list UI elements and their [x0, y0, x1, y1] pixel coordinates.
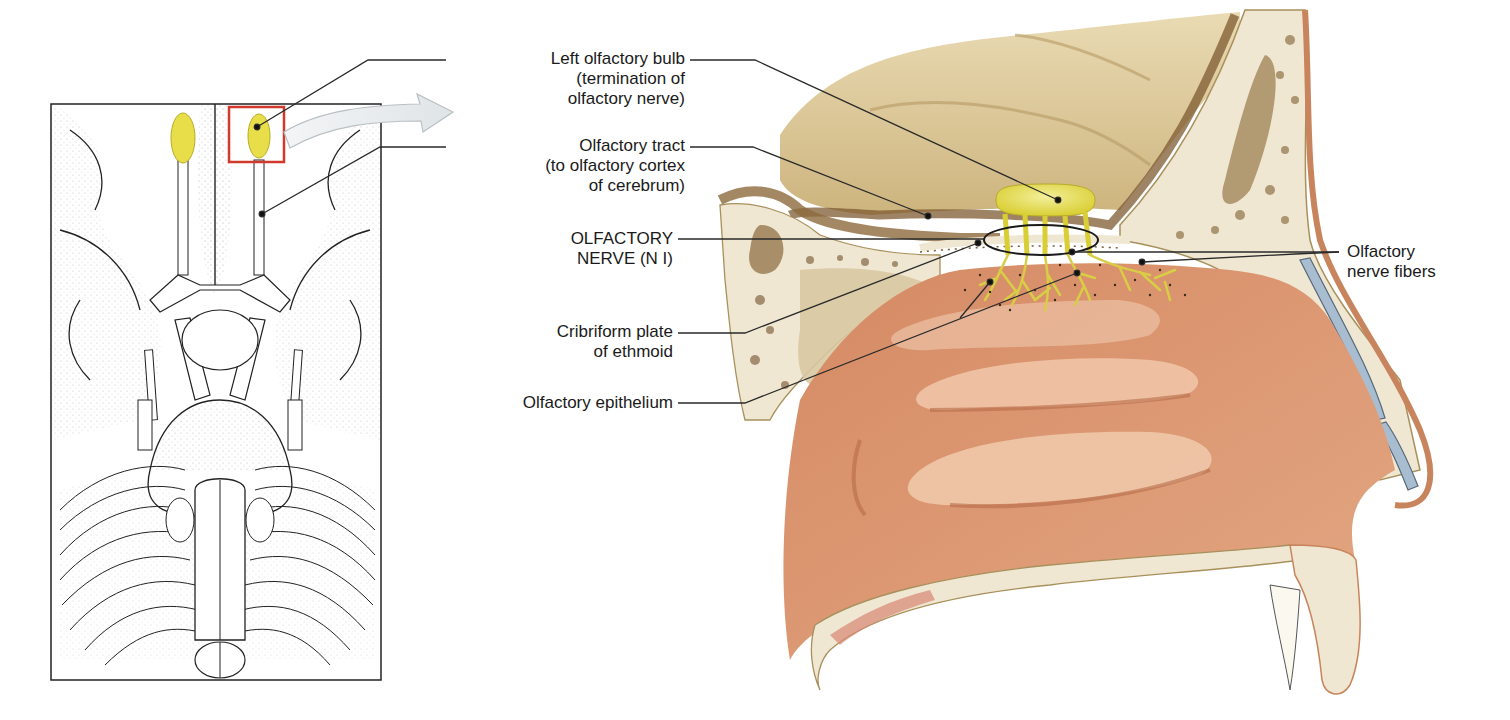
- label-cribriform-plate: Cribriform plate of ethmoid: [450, 322, 673, 362]
- label-olfactory-nerve-fibers: Olfactory nerve fibers: [1347, 242, 1507, 282]
- label-left-olfactory-bulb: Left olfactory bulb (termination of olfa…: [450, 49, 685, 109]
- label-olfactory-epithelium: Olfactory epithelium: [450, 393, 673, 413]
- nasal-cavity-section: [720, 10, 1430, 694]
- olfactory-nerve-figure: Left olfactory bulb (termination of olfa…: [0, 0, 1510, 720]
- brain-inset: [51, 104, 381, 680]
- label-olfactory-nerve: OLFACTORY NERVE (N I): [450, 229, 673, 269]
- label-olfactory-tract: Olfactory tract (to olfactory cortex of …: [450, 136, 685, 196]
- illustration: [0, 0, 1510, 720]
